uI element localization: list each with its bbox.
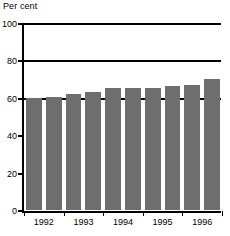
x-axis-label-1992: 1992 [34, 217, 54, 227]
bar [145, 88, 161, 210]
x-tick [103, 211, 104, 216]
x-tick [222, 211, 223, 216]
y-tick-20 [18, 173, 23, 175]
y-tick-60 [18, 98, 23, 100]
y-tick-label-100: 100 [2, 19, 17, 29]
chart-title: Per cent [3, 1, 37, 11]
x-axis-label-1993: 1993 [73, 217, 93, 227]
y-tick-label-80: 80 [7, 56, 17, 66]
x-tick [64, 211, 65, 216]
y-tick-0 [18, 210, 23, 212]
y-axis-line [22, 24, 24, 212]
gridline-100 [22, 23, 221, 25]
bar [105, 88, 121, 210]
y-tick-label-20: 20 [7, 169, 17, 179]
x-axis-label-1996: 1996 [192, 217, 212, 227]
y-tick-label-0: 0 [12, 206, 17, 216]
bar [66, 94, 82, 210]
bar [26, 98, 42, 210]
x-tick [143, 211, 144, 216]
x-tick [182, 211, 183, 216]
bar [165, 86, 181, 210]
x-axis-label-1994: 1994 [113, 217, 133, 227]
bar [184, 85, 200, 210]
y-tick-label-60: 60 [7, 94, 17, 104]
x-tick [24, 211, 25, 216]
bar [204, 79, 220, 210]
bar [85, 92, 101, 210]
x-axis-line [22, 211, 221, 213]
y-tick-100 [18, 23, 23, 25]
bar-chart: Per cent 020406080100 199219931994199519… [0, 0, 230, 236]
plot-area: 020406080100 19921993199419951996 [22, 24, 220, 211]
x-axis-label-1995: 1995 [153, 217, 173, 227]
y-tick-80 [18, 60, 23, 62]
y-tick-40 [18, 135, 23, 137]
gridline-80 [22, 60, 221, 62]
bar [125, 88, 141, 210]
bar [46, 97, 62, 210]
y-tick-label-40: 40 [7, 131, 17, 141]
